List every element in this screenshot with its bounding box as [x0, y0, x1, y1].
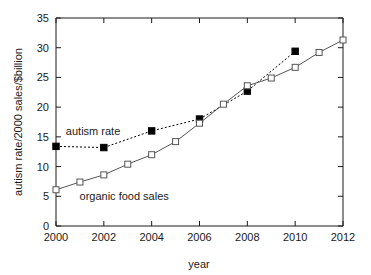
chart-figure: 05101520253035 2000200220042006200820102…: [0, 0, 371, 275]
data-point-marker: [340, 37, 346, 43]
x-tick-label: 2008: [235, 231, 259, 243]
data-point-marker: [197, 120, 203, 126]
y-tick-label: 25: [37, 71, 49, 83]
data-point-marker: [125, 161, 131, 167]
y-tick-label: 15: [37, 131, 49, 143]
x-tick-label: 2002: [92, 231, 116, 243]
x-axis-title: year: [188, 258, 210, 270]
y-tick-label: 30: [37, 42, 49, 54]
data-point-marker: [220, 101, 226, 107]
chart-plot-area: 05101520253035 2000200220042006200820102…: [0, 0, 371, 275]
data-point-marker: [148, 128, 154, 134]
data-point-marker: [173, 139, 179, 145]
series-annotation: autism rate: [66, 125, 120, 137]
x-tick-label: 2006: [187, 231, 211, 243]
data-point-marker: [53, 187, 59, 193]
series-annotation: organic food sales: [80, 190, 170, 202]
data-point-marker: [149, 152, 155, 158]
data-point-marker: [316, 49, 322, 55]
x-tick-label: 2012: [331, 231, 355, 243]
data-point-marker: [268, 75, 274, 81]
data-point-marker: [244, 83, 250, 89]
data-point-marker: [292, 64, 298, 70]
x-tick-label: 2004: [139, 231, 163, 243]
y-tick-label: 20: [37, 101, 49, 113]
y-tick-label: 5: [43, 190, 49, 202]
y-axis-title: autism rate/2000 sales/$billion: [12, 48, 24, 196]
data-point-marker: [101, 144, 107, 150]
data-point-marker: [77, 179, 83, 185]
data-point-marker: [101, 172, 107, 178]
x-tick-label: 2010: [283, 231, 307, 243]
data-point-marker: [53, 143, 59, 149]
data-point-marker: [292, 48, 298, 54]
y-tick-label: 35: [37, 12, 49, 24]
y-tick-label: 10: [37, 161, 49, 173]
x-tick-label: 2000: [44, 231, 68, 243]
